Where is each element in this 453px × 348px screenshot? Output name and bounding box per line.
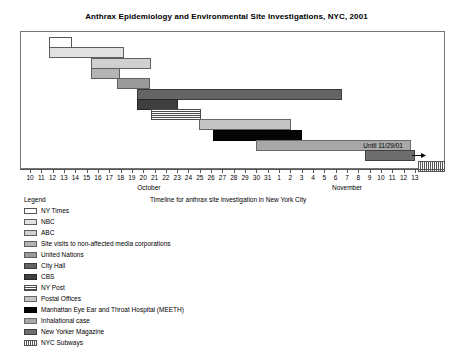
legend-item-label: CBS xyxy=(41,273,54,281)
axis-tick xyxy=(324,169,325,173)
legend: Legend NY TimesNBCABCSite visits to non-… xyxy=(24,196,184,348)
legend-item-label: NBC xyxy=(41,218,55,226)
axis-tick xyxy=(109,169,110,173)
axis-tick xyxy=(143,169,144,173)
axis-tick xyxy=(188,169,189,173)
legend-swatch-icon xyxy=(24,230,37,236)
legend-swatch-icon xyxy=(24,219,37,225)
legend-item-label: Manhattan Eye Ear and Throat Hospital (M… xyxy=(41,306,184,314)
legend-item-label: NY Post xyxy=(41,284,65,292)
legend-item: Inhalational case xyxy=(24,315,184,326)
axis-tick xyxy=(53,169,54,173)
axis-tick xyxy=(132,169,133,173)
legend-rows: NY TimesNBCABCSite visits to non-affecte… xyxy=(24,205,184,348)
axis-tick xyxy=(279,169,280,173)
page-title: Anthrax Epidemiology and Environmental S… xyxy=(0,12,453,21)
legend-item-label: ABC xyxy=(41,229,54,237)
axis-tick xyxy=(302,169,303,173)
axis-tick xyxy=(177,169,178,173)
legend-swatch-icon xyxy=(24,263,37,269)
axis-tick xyxy=(166,169,167,173)
legend-swatch-icon xyxy=(24,296,37,302)
legend-swatch-icon xyxy=(24,329,37,335)
axis-tick xyxy=(98,169,99,173)
legend-item: Postal Offices xyxy=(24,293,184,304)
axis-tick xyxy=(370,169,371,173)
legend-title: Legend xyxy=(24,196,184,203)
gantt-bar xyxy=(151,109,201,120)
legend-item: NY Times xyxy=(24,205,184,216)
legend-item: NYC Subways xyxy=(24,337,184,348)
legend-item: Site visits to non-affected media corpor… xyxy=(24,238,184,249)
axis-tick xyxy=(222,169,223,173)
legend-swatch-icon xyxy=(24,274,37,280)
axis-tick xyxy=(41,169,42,173)
axis-tick xyxy=(75,169,76,173)
legend-item: Manhattan Eye Ear and Throat Hospital (M… xyxy=(24,304,184,315)
until-annotation-label: Until 11/29/01 xyxy=(363,142,403,149)
axis-tick xyxy=(268,169,269,173)
gantt-bar xyxy=(365,150,415,161)
legend-swatch-icon xyxy=(24,241,37,247)
axis-tick xyxy=(415,169,416,173)
legend-item: CBS xyxy=(24,271,184,282)
axis-month-label: November xyxy=(317,184,377,191)
axis-tick xyxy=(404,169,405,173)
legend-item-label: City Hall xyxy=(41,262,65,270)
legend-swatch-icon xyxy=(24,307,37,313)
legend-item: NY Post xyxy=(24,282,184,293)
legend-item-label: Site visits to non-affected media corpor… xyxy=(41,240,171,248)
axis-tick xyxy=(313,169,314,173)
legend-item: United Nations xyxy=(24,249,184,260)
legend-item-label: NY Times xyxy=(41,207,69,215)
legend-swatch-icon xyxy=(24,318,37,324)
axis-tick xyxy=(245,169,246,173)
legend-item: ABC xyxy=(24,227,184,238)
axis-tick xyxy=(155,169,156,173)
axis-tick xyxy=(200,169,201,173)
axis-tick xyxy=(87,169,88,173)
axis-month-label: October xyxy=(119,184,179,191)
axis-tick xyxy=(64,169,65,173)
axis-tick xyxy=(234,169,235,173)
legend-swatch-icon xyxy=(24,208,37,214)
axis-tick xyxy=(256,169,257,173)
axis-tick xyxy=(211,169,212,173)
legend-item-label: Postal Offices xyxy=(41,295,81,303)
legend-item: City Hall xyxy=(24,260,184,271)
axis-tick xyxy=(336,169,337,173)
right-arrow-icon xyxy=(412,144,426,162)
axis-tick xyxy=(290,169,291,173)
legend-item: New Yorker Magazine xyxy=(24,326,184,337)
legend-item-label: Inhalational case xyxy=(41,317,90,325)
axis-tick-label: 13 xyxy=(407,174,423,181)
legend-swatch-icon xyxy=(24,340,37,346)
gantt-bar xyxy=(91,68,120,79)
legend-swatch-icon xyxy=(24,252,37,258)
axis-tick xyxy=(392,169,393,173)
axis-tick xyxy=(30,169,31,173)
legend-item: NBC xyxy=(24,216,184,227)
legend-item-label: New Yorker Magazine xyxy=(41,328,104,336)
x-axis: 1011121314151617181920212223242526272829… xyxy=(20,169,445,199)
chart-plot-frame: Until 11/29/01 xyxy=(20,31,445,169)
axis-tick xyxy=(347,169,348,173)
gantt-bars-container: Until 11/29/01 xyxy=(21,32,444,168)
legend-item-label: NYC Subways xyxy=(41,339,83,347)
axis-tick xyxy=(121,169,122,173)
axis-tick xyxy=(358,169,359,173)
legend-swatch-icon xyxy=(24,285,37,291)
legend-item-label: United Nations xyxy=(41,251,84,259)
axis-tick xyxy=(381,169,382,173)
